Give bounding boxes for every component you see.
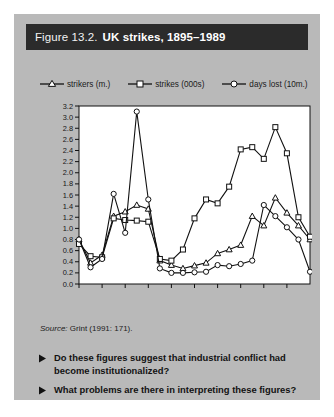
y-axis-tick-label: 1.2 — [63, 213, 73, 222]
y-axis-tick-label: 0.8 — [63, 235, 73, 244]
square-marker-icon — [128, 79, 152, 89]
source-text: Grint (1991: 171). — [68, 324, 133, 333]
circle-marker-icon — [222, 79, 246, 89]
y-axis-tick-label: 1.6 — [63, 191, 73, 200]
data-point-circle — [76, 237, 81, 242]
data-point-square — [296, 215, 301, 220]
figure-title: UK strikes, 1895–1989 — [103, 31, 226, 43]
y-axis-tick-label: 0.4 — [63, 257, 73, 266]
data-point-square — [250, 145, 255, 150]
data-point-square — [238, 147, 243, 152]
y-axis-tick-label: 0.2 — [63, 268, 73, 277]
data-point-circle — [157, 266, 162, 271]
data-point-circle — [203, 269, 208, 274]
data-point-square — [146, 219, 151, 224]
y-axis-tick-label: 3.0 — [63, 113, 73, 122]
y-axis-tick-label: 2.8 — [63, 124, 73, 133]
legend-item-days-lost: days lost (10m.) — [222, 79, 307, 89]
data-point-circle — [111, 191, 116, 196]
data-point-circle — [250, 258, 255, 263]
chart-plot-area: 0.00.20.40.60.81.01.21.41.61.82.02.22.42… — [38, 102, 312, 288]
y-axis-tick-label: 2.0 — [63, 168, 73, 177]
y-axis-tick-label: 0.6 — [63, 246, 73, 255]
y-axis-tick-label: 1.0 — [63, 224, 73, 233]
source-label: Source: — [40, 324, 68, 333]
y-axis: 0.00.20.40.60.81.01.21.41.61.82.02.22.42… — [63, 102, 79, 288]
data-point-square — [308, 234, 313, 239]
triangle-bullet-icon — [38, 354, 47, 363]
triangle-bullet-icon — [38, 386, 47, 395]
data-point-circle — [296, 237, 301, 242]
y-axis-tick-label: 2.6 — [63, 135, 73, 144]
data-point-circle — [100, 256, 105, 261]
y-axis-tick-label: 1.4 — [63, 202, 73, 211]
data-point-circle — [88, 265, 93, 270]
source-note: Source: Grint (1991: 171). — [40, 324, 133, 333]
data-point-circle — [146, 197, 151, 202]
strikes-line-chart: 0.00.20.40.60.81.01.21.41.61.82.02.22.42… — [38, 102, 312, 288]
data-point-circle — [238, 261, 243, 266]
question-item: What problems are there in interpreting … — [38, 384, 310, 397]
data-point-square — [204, 197, 209, 202]
data-point-circle — [307, 269, 312, 274]
data-point-circle — [123, 230, 128, 235]
y-axis-tick-label: 1.8 — [63, 179, 73, 188]
figure-header: Figure 13.2. UK strikes, 1895–1989 — [26, 24, 308, 50]
data-point-circle — [180, 270, 185, 275]
question-text: Do these figures suggest that industrial… — [54, 352, 310, 378]
question-text: What problems are there in interpreting … — [54, 384, 296, 397]
legend-item-strikers: strikers (m.) — [40, 79, 110, 89]
data-point-square — [111, 216, 116, 221]
data-point-square — [284, 151, 289, 156]
legend-label-strikes: strikes (000s) — [155, 80, 204, 89]
data-point-circle — [192, 270, 197, 275]
data-point-circle — [227, 264, 232, 269]
y-axis-tick-label: 2.4 — [63, 146, 73, 155]
data-point-square — [215, 201, 220, 206]
chart-legend: strikers (m.) strikes (000s) days lost (… — [40, 76, 302, 92]
question-item: Do these figures suggest that industrial… — [38, 352, 310, 378]
figure-panel: Figure 13.2. UK strikes, 1895–1989 strik… — [14, 14, 320, 400]
triangle-marker-icon — [40, 79, 64, 89]
figure-number: Figure 13.2. — [35, 31, 98, 43]
data-point-square — [134, 218, 139, 223]
legend-label-strikers: strikers (m.) — [67, 80, 110, 89]
data-point-circle — [273, 214, 278, 219]
data-point-circle — [134, 109, 139, 114]
data-point-circle — [284, 225, 289, 230]
question-list: Do these figures suggest that industrial… — [38, 352, 310, 403]
data-point-circle — [215, 262, 220, 267]
data-point-square — [169, 258, 174, 263]
data-point-square — [273, 125, 278, 130]
legend-item-strikes: strikes (000s) — [128, 79, 204, 89]
data-point-circle — [169, 270, 174, 275]
data-point-square — [261, 156, 266, 161]
x-axis: 1895–91905–91915–191925–91935–91945–9195… — [60, 284, 291, 288]
y-axis-tick-label: 3.2 — [63, 102, 73, 111]
y-axis-tick-label: 0.0 — [63, 280, 73, 288]
data-point-square — [192, 216, 197, 221]
data-point-circle — [261, 202, 266, 207]
legend-label-days-lost: days lost (10m.) — [249, 80, 307, 89]
data-point-square — [180, 247, 185, 252]
data-point-square — [88, 254, 93, 259]
data-point-square — [227, 184, 232, 189]
y-axis-tick-label: 2.2 — [63, 157, 73, 166]
